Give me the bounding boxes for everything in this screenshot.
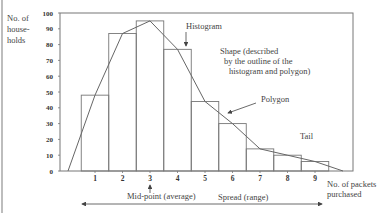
y-tick-label: 80 bbox=[46, 41, 54, 49]
shape-label-line-1: Shape (described bbox=[220, 46, 279, 56]
y-axis-ticks: 0102030405060708090100 bbox=[43, 10, 61, 176]
frequency-polygon bbox=[68, 21, 343, 171]
y-tick-label: 100 bbox=[43, 10, 54, 18]
histogram-bar bbox=[246, 149, 274, 171]
x-tick-label: 8 bbox=[286, 174, 290, 183]
y-tick-label: 0 bbox=[50, 168, 54, 176]
x-axis-ticks: 123456789 bbox=[93, 171, 317, 183]
polygon-label: Polygon bbox=[261, 94, 290, 104]
x-tick-label: 5 bbox=[203, 174, 207, 183]
polygon-pointer-arrow bbox=[228, 103, 256, 113]
midpoint-label: Mid-point (average) bbox=[127, 191, 196, 201]
histogram-label: Histogram bbox=[186, 21, 222, 31]
x-tick-label: 6 bbox=[231, 174, 235, 183]
y-tick-label: 30 bbox=[46, 120, 54, 128]
y-tick-label: 20 bbox=[46, 136, 54, 144]
tail-label: Tail bbox=[300, 131, 314, 141]
shape-label-line-3: histogram and polygon) bbox=[229, 66, 310, 76]
histogram-bar bbox=[219, 124, 247, 171]
x-tick-label: 2 bbox=[121, 174, 125, 183]
shape-label-line-2: by the outline of the bbox=[224, 56, 293, 66]
y-tick-label: 90 bbox=[46, 25, 54, 33]
y-tick-label: 10 bbox=[46, 152, 54, 160]
histogram-bar bbox=[81, 95, 109, 171]
y-tick-label: 60 bbox=[46, 73, 54, 81]
x-axis-label-line-2: purchased bbox=[327, 189, 362, 199]
y-tick-label: 70 bbox=[46, 57, 54, 65]
plot-frame bbox=[60, 13, 353, 171]
x-tick-label: 1 bbox=[93, 174, 97, 183]
histogram-bar bbox=[301, 162, 329, 171]
x-tick-label: 4 bbox=[176, 174, 180, 183]
histogram-bar bbox=[136, 21, 164, 171]
y-tick-label: 50 bbox=[46, 89, 54, 97]
histogram-bar bbox=[191, 101, 219, 171]
x-tick-label: 7 bbox=[258, 174, 262, 183]
x-tick-label: 3 bbox=[148, 174, 152, 183]
spread-label: Spread (range) bbox=[218, 192, 268, 202]
histogram-chart: 0102030405060708090100 123456789 Histogr… bbox=[0, 0, 390, 213]
y-tick-label: 40 bbox=[46, 104, 54, 112]
x-tick-label: 9 bbox=[313, 174, 317, 183]
x-axis-label-line-1: No. of packets bbox=[327, 179, 376, 189]
